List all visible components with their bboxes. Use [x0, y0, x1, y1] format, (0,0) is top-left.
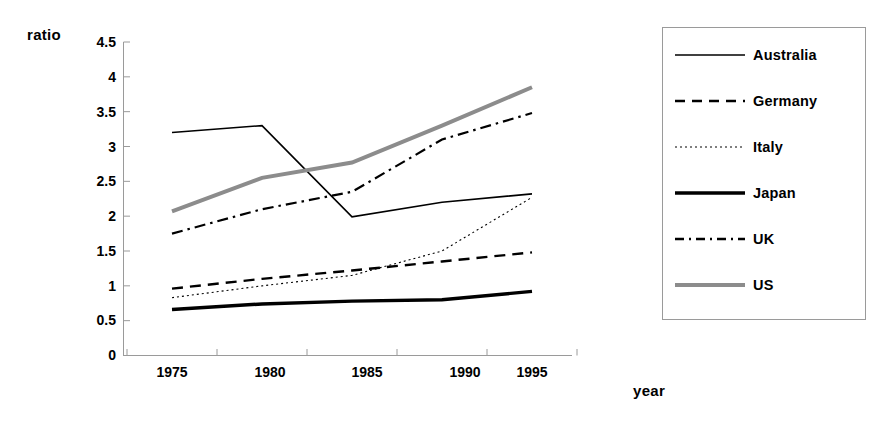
legend-swatch-italy — [671, 137, 749, 157]
legend-swatch-germany — [671, 91, 749, 111]
y-axis-ticks — [124, 42, 131, 356]
legend-label-us: US — [753, 277, 774, 293]
legend-swatch-uk — [671, 229, 749, 249]
series-line-uk — [172, 113, 532, 234]
legend-item-italy[interactable]: Italy — [663, 137, 867, 157]
legend-label-japan: Japan — [753, 185, 796, 201]
legend-swatch-us — [671, 275, 749, 295]
legend-item-germany[interactable]: Germany — [663, 91, 867, 111]
legend-item-us[interactable]: US — [663, 275, 867, 295]
legend-item-uk[interactable]: UK — [663, 229, 867, 249]
legend-item-australia[interactable]: Australia — [663, 45, 867, 65]
legend-swatch-japan — [671, 183, 749, 203]
line-chart: ratio year 0 0.5 1 1.5 2 2.5 3 3.5 4 4.5… — [0, 0, 884, 435]
legend-swatch-australia — [671, 45, 749, 65]
data-series-group — [172, 87, 532, 309]
x-axis-ticks — [127, 349, 577, 356]
series-line-germany — [172, 252, 532, 288]
legend-label-germany: Germany — [753, 93, 817, 109]
legend-label-australia: Australia — [753, 47, 817, 63]
legend-label-italy: Italy — [753, 139, 783, 155]
series-line-us — [172, 87, 532, 211]
legend: Australia Germany Italy Japan UK — [662, 27, 866, 320]
series-line-japan — [172, 291, 532, 309]
legend-label-uk: UK — [753, 231, 774, 247]
series-line-australia — [172, 126, 532, 217]
legend-item-japan[interactable]: Japan — [663, 183, 867, 203]
